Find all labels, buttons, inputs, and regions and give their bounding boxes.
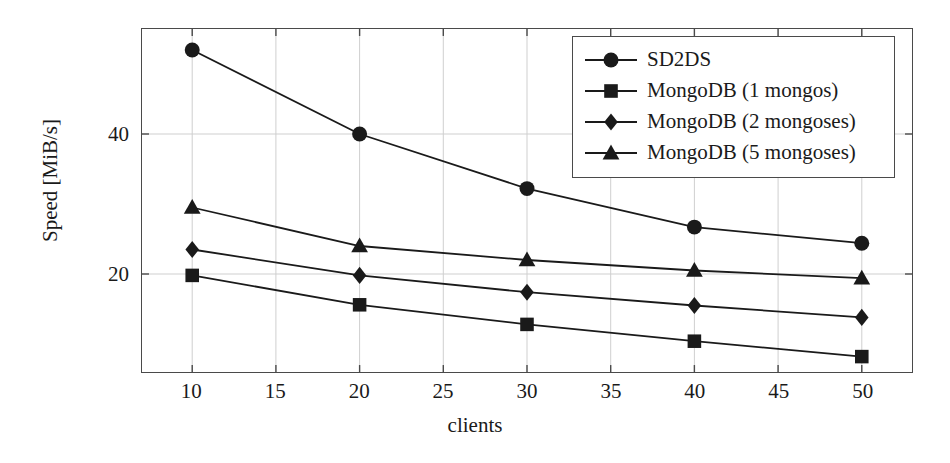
circle-marker-icon: [583, 48, 639, 72]
y-axis-title: Speed [MiB/s]: [38, 71, 63, 291]
x-tick-label: 20: [349, 381, 370, 402]
x-axis-title: clients: [0, 413, 950, 438]
x-tick-label: 50: [852, 381, 873, 402]
legend-marker-square: [604, 84, 618, 98]
x-tick-label: 45: [768, 381, 789, 402]
legend-marker-circle: [604, 52, 619, 67]
series-marker-circle: [520, 181, 535, 196]
series-line-3: [192, 207, 862, 278]
series-marker-diamond: [185, 241, 199, 258]
y-tick-label: 20: [95, 264, 129, 285]
x-tick-label: 10: [181, 381, 202, 402]
square-marker-icon: [583, 79, 639, 103]
x-tick-label: 40: [684, 381, 705, 402]
series-marker-diamond: [688, 297, 702, 314]
series-marker-circle: [352, 127, 367, 142]
diamond-marker-icon: [583, 110, 639, 134]
legend-entry-diamond: MongoDB (2 mongoses): [583, 106, 884, 137]
series-marker-square: [688, 334, 702, 348]
legend-entry-square: MongoDB (1 mongos): [583, 75, 884, 106]
x-tick-label: 35: [600, 381, 621, 402]
series-marker-square: [855, 350, 869, 364]
legend-label: MongoDB (5 mongoses): [647, 142, 856, 163]
chart-legend: SD2DSMongoDB (1 mongos)MongoDB (2 mongos…: [572, 36, 895, 178]
series-marker-triangle: [184, 199, 201, 214]
legend-entry-triangle: MongoDB (5 mongoses): [583, 137, 884, 168]
series-marker-diamond: [520, 284, 534, 301]
series-marker-circle: [854, 236, 869, 251]
series-marker-diamond: [855, 309, 869, 326]
x-tick-label: 25: [433, 381, 454, 402]
series-marker-diamond: [353, 267, 367, 284]
series-marker-circle: [687, 220, 702, 235]
series-marker-circle: [185, 43, 200, 58]
series-marker-square: [185, 269, 199, 283]
x-tick-label: 15: [265, 381, 286, 402]
chart-figure: Speed [MiB/s] 2040 101520253035404550 cl…: [0, 0, 950, 463]
legend-label: MongoDB (2 mongoses): [647, 111, 856, 132]
x-tick-label: 30: [517, 381, 538, 402]
triangle-marker-icon: [583, 141, 639, 165]
y-tick-label: 40: [95, 123, 129, 144]
legend-entry-circle: SD2DS: [583, 44, 884, 75]
series-marker-square: [353, 298, 367, 312]
legend-label: SD2DS: [647, 49, 711, 70]
legend-marker-triangle: [603, 144, 620, 159]
series-marker-square: [520, 318, 534, 332]
legend-label: MongoDB (1 mongos): [647, 80, 838, 101]
legend-marker-diamond: [604, 113, 618, 130]
